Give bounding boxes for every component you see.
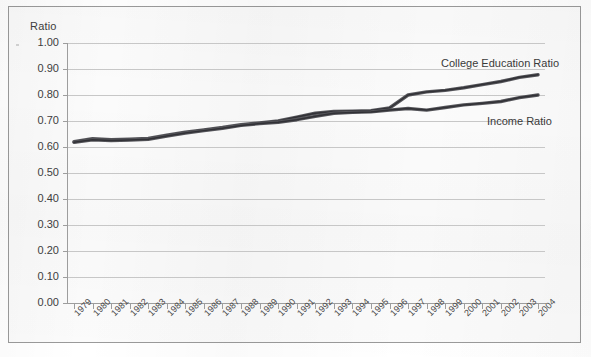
gridline <box>67 95 545 96</box>
y-axis-tick-label: 1.00 <box>38 36 59 48</box>
gridline <box>67 173 545 174</box>
y-axis-tick-mark <box>63 225 67 226</box>
y-axis-tick-label: 0.40 <box>38 192 59 204</box>
gridline <box>67 69 545 70</box>
y-axis-tick-label: 0.60 <box>38 140 59 152</box>
gridline <box>67 199 545 200</box>
y-axis-tick-label: 0.00 <box>38 296 59 308</box>
series-label-college-education-ratio: College Education Ratio <box>441 57 559 69</box>
y-axis-tick-mark <box>63 173 67 174</box>
y-axis-tick-labels: 0.000.100.200.300.400.500.600.700.800.90… <box>0 0 59 357</box>
y-axis-line <box>67 43 68 304</box>
y-axis-tick-label: 0.50 <box>38 166 59 178</box>
y-axis-tick-mark <box>63 147 67 148</box>
gridline <box>67 225 545 226</box>
series-label-income-ratio: Income Ratio <box>487 115 552 127</box>
y-axis-tick-mark <box>63 121 67 122</box>
plot-area <box>67 43 545 303</box>
y-axis-tick-mark <box>63 95 67 96</box>
y-axis-tick-mark <box>63 303 67 304</box>
y-axis-tick-mark <box>63 277 67 278</box>
y-axis-tick-label: 0.90 <box>38 62 59 74</box>
chart-figure: Ratio 0.000.100.200.300.400.500.600.700.… <box>0 0 591 357</box>
gridline <box>67 277 545 278</box>
y-axis-tick-label: 0.10 <box>38 270 59 282</box>
y-axis-tick-label: 0.20 <box>38 244 59 256</box>
gridline <box>67 43 545 44</box>
y-axis-tick-mark <box>63 199 67 200</box>
y-axis-tick-label: 0.70 <box>38 114 59 126</box>
gridline <box>67 147 545 148</box>
y-axis-tick-mark <box>63 69 67 70</box>
gridline <box>67 121 545 122</box>
y-axis-tick-label: 0.80 <box>38 88 59 100</box>
y-axis-tick-mark <box>63 43 67 44</box>
y-axis-tick-mark <box>63 251 67 252</box>
gridline <box>67 251 545 252</box>
y-axis-tick-label: 0.30 <box>38 218 59 230</box>
